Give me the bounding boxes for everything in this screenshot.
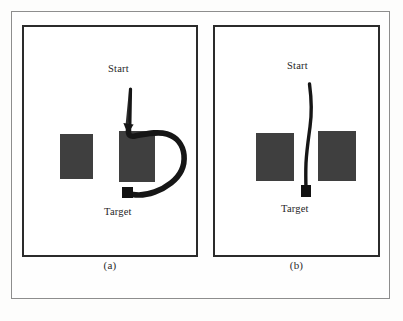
panel-a-caption: (a) [22,259,198,271]
panel-a-start-label: Start [108,63,129,74]
panel-a-arrowhead-icon [24,27,196,255]
panel-a-path [24,27,196,255]
panel-a-right-obstacle [119,131,155,182]
panel-b-target-label: Target [281,203,309,214]
panel-b: Start Target (b) [213,25,380,277]
panel-b-right-obstacle [318,131,356,181]
panel-a: Start Target (a) [22,25,198,277]
panel-a-target-marker [122,187,133,198]
panel-b-target-marker [301,185,311,197]
panel-a-box: Start Target [22,25,198,257]
panel-b-box: Start Target [213,25,380,257]
panel-a-target-label: Target [104,206,132,217]
panel-b-caption: (b) [213,259,380,271]
panel-b-start-label: Start [287,60,308,71]
figure-root: Start Target (a) Start Target (b) [0,0,403,321]
panel-b-left-obstacle [256,133,294,181]
panel-a-left-obstacle [60,134,93,179]
